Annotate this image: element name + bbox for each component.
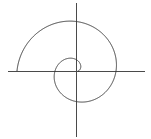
spiral-figure	[0, 0, 151, 139]
spiral-figure-canvas	[0, 0, 151, 139]
